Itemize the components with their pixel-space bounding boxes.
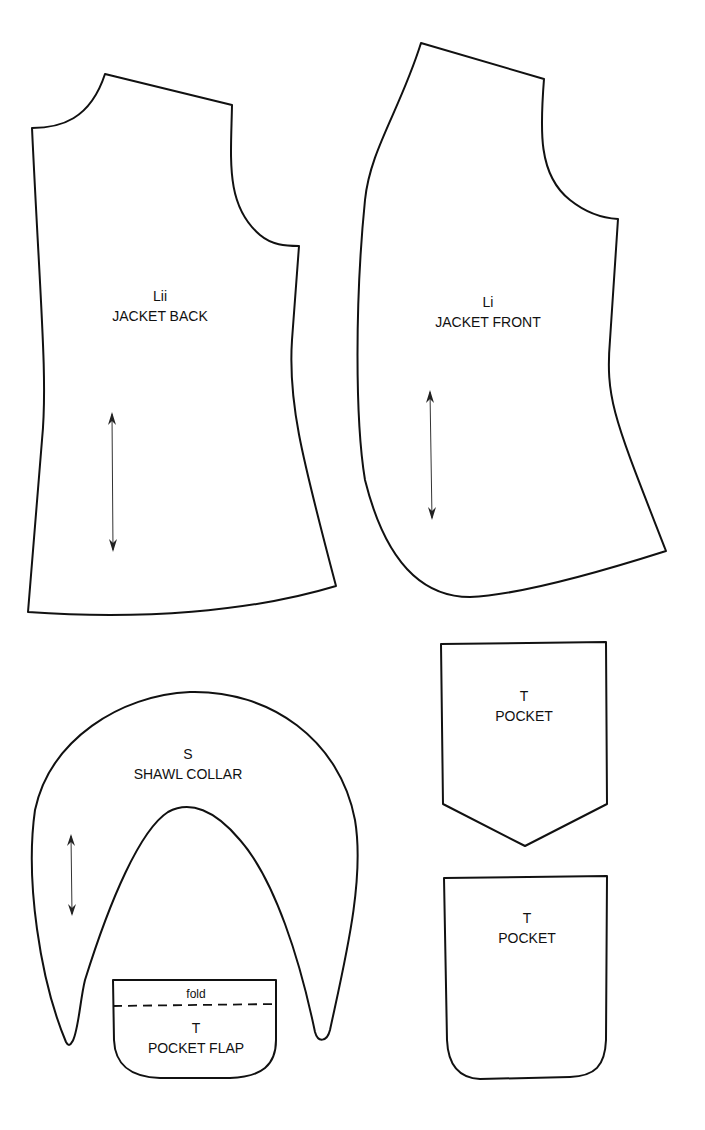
jacket-front-name: JACKET FRONT [435, 312, 541, 332]
pocket-rounded-code: T [498, 908, 556, 928]
pocket-rounded-name: POCKET [498, 928, 556, 948]
jacket-back-code: Lii [112, 286, 207, 306]
shawl-collar-grainline [67, 834, 76, 916]
jacket-front-grainline [426, 390, 436, 520]
pocket-flap-code: T [148, 1018, 244, 1038]
pocket-rounded-label: T POCKET [498, 908, 556, 948]
shawl-collar-label: S SHAWL COLLAR [134, 744, 243, 784]
pocket-rounded-outline [444, 876, 607, 1079]
jacket-front-label: Li JACKET FRONT [435, 292, 541, 332]
jacket-front-code: Li [435, 292, 541, 312]
pocket-pointed-piece [441, 642, 607, 846]
pocket-flap-label: T POCKET FLAP [148, 1018, 244, 1058]
shawl-collar-code: S [134, 744, 243, 764]
jacket-back-grainline [108, 412, 117, 552]
pocket-flap-fold-label: fold [186, 987, 205, 1001]
jacket-back-name: JACKET BACK [112, 306, 207, 326]
pocket-flap-name: POCKET FLAP [148, 1038, 244, 1058]
pocket-pointed-name: POCKET [495, 706, 553, 726]
pocket-pointed-label: T POCKET [495, 686, 553, 726]
jacket-back-piece [28, 74, 336, 615]
jacket-back-label: Lii JACKET BACK [112, 286, 207, 326]
pocket-pointed-code: T [495, 686, 553, 706]
pocket-pointed-outline [441, 642, 607, 846]
shawl-collar-name: SHAWL COLLAR [134, 764, 243, 784]
jacket-back-outline [28, 74, 336, 615]
pocket-flap-fold-line [113, 1004, 276, 1006]
pocket-rounded-piece [444, 876, 607, 1079]
pattern-sheet [0, 0, 705, 1130]
